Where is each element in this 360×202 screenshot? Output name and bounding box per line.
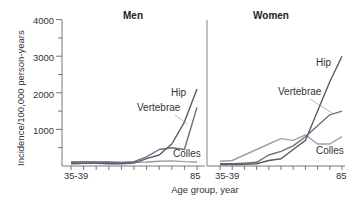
men-vertebrae-label: Vertebrae	[137, 102, 181, 113]
women-x-tick-last: 85	[336, 170, 347, 181]
men-hip-label: Hip	[171, 87, 186, 98]
women-x-tick-first: 35-39	[215, 170, 239, 181]
women-vertebrae-label: Vertebrae	[278, 86, 322, 97]
y-axis	[56, 20, 62, 166]
fracture-incidence-chart: Incidence/100,000 person-years 4000 3000…	[0, 0, 360, 202]
men-panel-title: Men	[123, 10, 143, 21]
women-vertebrae-leader	[310, 99, 332, 113]
y-tick-3000: 3000	[33, 52, 54, 63]
women-hip-label: Hip	[316, 57, 331, 68]
women-colles-label: Colles	[316, 145, 344, 156]
y-axis-title: Incidence/100,000 person-years	[15, 30, 26, 166]
men-colles-label: Colles	[173, 148, 201, 159]
women-panel-title: Women	[253, 10, 289, 21]
x-axis-title: Age group, year	[171, 184, 239, 195]
men-x-tick-last: 85	[190, 170, 201, 181]
y-tick-4000: 4000	[33, 15, 54, 26]
men-x-tick-first: 35-39	[64, 170, 88, 181]
y-tick-2000: 2000	[33, 89, 54, 100]
y-tick-1000: 1000	[33, 125, 54, 136]
